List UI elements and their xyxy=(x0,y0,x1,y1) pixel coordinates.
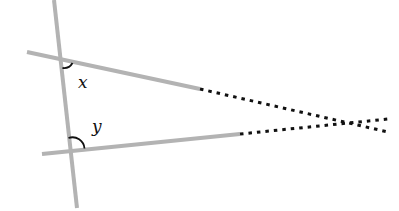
angle-x-arc xyxy=(63,63,73,68)
top-line-dotted-extension xyxy=(200,89,388,132)
top-line-solid xyxy=(27,52,200,89)
transversal-line xyxy=(54,0,77,208)
transversal-diagram: x y xyxy=(0,0,399,211)
angle-y-label: y xyxy=(91,116,102,136)
bottom-line-dotted-extension xyxy=(240,119,388,134)
angle-x-label: x xyxy=(78,72,88,92)
